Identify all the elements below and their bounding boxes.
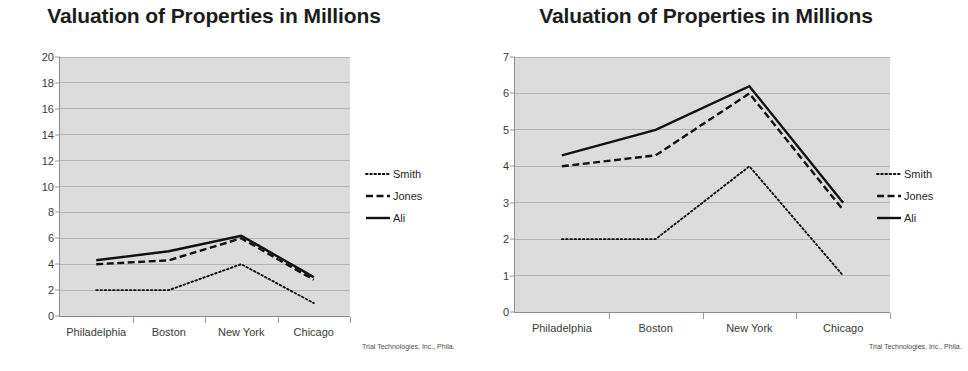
legend-left: SmithJonesAli xyxy=(365,163,422,229)
legend-line-swatch-dash-dot xyxy=(876,191,902,201)
legend-item-jones: Jones xyxy=(876,185,933,207)
y-axis-tick-label: 0 xyxy=(487,306,509,318)
x-axis-tick-mark xyxy=(278,317,279,323)
x-axis-category-label: New York xyxy=(726,322,772,334)
y-axis-tick-label: 1 xyxy=(487,270,509,282)
footer-note-left: Trial Technologies, Inc., Phila. xyxy=(362,343,455,350)
legend-item-label: Smith xyxy=(904,168,932,180)
y-axis-tick-label: 0 xyxy=(28,310,54,322)
y-axis-tick-label: 4 xyxy=(28,258,54,270)
y-axis-tick-label: 10 xyxy=(28,181,54,193)
y-axis-tick-label: 14 xyxy=(28,129,54,141)
legend-item-label: Ali xyxy=(393,212,405,224)
y-axis-tick-label: 7 xyxy=(487,51,509,63)
x-axis-tick-mark xyxy=(796,313,797,319)
legend-item-label: Smith xyxy=(393,168,421,180)
legend-item-label: Jones xyxy=(904,190,933,202)
series-line-ali xyxy=(96,236,314,277)
series-line-smith xyxy=(562,166,843,275)
x-axis-category-label: Chicago xyxy=(823,322,863,334)
footer-note-right: Trial Technologies, Inc., Phila. xyxy=(869,343,962,350)
legend-item-label: Jones xyxy=(393,190,422,202)
plot-area-right: 01234567PhiladelphiaBostonNew YorkChicag… xyxy=(515,57,890,312)
x-axis-category-label: Philadelphia xyxy=(66,326,126,338)
legend-line-swatch-solid xyxy=(876,213,902,223)
legend-item-ali: Ali xyxy=(876,207,933,229)
y-axis-tick-label: 4 xyxy=(487,160,509,172)
plot-area-left: 02468101214161820PhiladelphiaBostonNew Y… xyxy=(60,57,350,316)
legend-line-swatch-dash-dot xyxy=(365,191,391,201)
y-axis-tick-label: 20 xyxy=(28,51,54,63)
x-axis-tick-mark xyxy=(350,317,351,323)
legend-item-smith: Smith xyxy=(876,163,933,185)
series-line-smith xyxy=(96,264,314,303)
x-axis-tick-mark xyxy=(205,317,206,323)
legend-item-jones: Jones xyxy=(365,185,422,207)
series-line-ali xyxy=(562,86,843,203)
x-axis-tick-mark xyxy=(890,313,891,319)
y-axis-line xyxy=(514,57,515,313)
y-axis-tick-label: 6 xyxy=(28,232,54,244)
x-axis-tick-mark xyxy=(703,313,704,319)
y-axis-line xyxy=(59,57,60,317)
y-axis-tick-label: 2 xyxy=(28,284,54,296)
legend-right: SmithJonesAli xyxy=(876,163,933,229)
y-axis-tick-label: 5 xyxy=(487,124,509,136)
x-axis-category-label: Philadelphia xyxy=(532,322,592,334)
page-title-left: Valuation of Properties in Millions xyxy=(0,4,484,28)
legend-line-swatch-solid xyxy=(365,213,391,223)
legend-item-label: Ali xyxy=(904,212,916,224)
y-axis-tick-label: 18 xyxy=(28,77,54,89)
series-lines-right xyxy=(515,57,890,312)
legend-item-ali: Ali xyxy=(365,207,422,229)
x-axis-category-label: Boston xyxy=(152,326,186,338)
x-axis-category-label: Boston xyxy=(639,322,673,334)
legend-line-swatch-dotted xyxy=(876,169,902,179)
y-axis-tick-label: 16 xyxy=(28,103,54,115)
y-axis-tick-label: 2 xyxy=(487,233,509,245)
y-axis-tick-label: 8 xyxy=(28,206,54,218)
legend-item-smith: Smith xyxy=(365,163,422,185)
legend-line-swatch-dotted xyxy=(365,169,391,179)
x-axis-category-label: New York xyxy=(218,326,264,338)
x-axis-tick-mark xyxy=(133,317,134,323)
figure-pair: Valuation of Properties in Millions 0246… xyxy=(0,0,968,371)
x-axis-tick-mark xyxy=(609,313,610,319)
chart-panel-right: Valuation of Properties in Millions 0123… xyxy=(484,0,968,371)
x-axis-category-label: Chicago xyxy=(294,326,334,338)
page-title-right: Valuation of Properties in Millions xyxy=(484,4,968,28)
chart-panel-left: Valuation of Properties in Millions 0246… xyxy=(0,0,484,371)
y-axis-tick-label: 6 xyxy=(487,87,509,99)
y-axis-tick-label: 12 xyxy=(28,155,54,167)
series-lines-left xyxy=(60,57,350,316)
y-axis-tick-label: 3 xyxy=(487,197,509,209)
